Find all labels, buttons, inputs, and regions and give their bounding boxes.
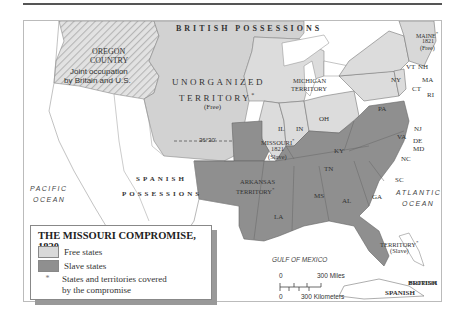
state-label-ma: MA xyxy=(422,77,433,84)
missouri-status: (Slave) xyxy=(268,154,287,161)
oregon-note-1: Joint occupation xyxy=(70,68,128,76)
state-label-ms: MS xyxy=(314,193,324,200)
state-label-ri: RI xyxy=(427,92,434,99)
state-label-va: VA xyxy=(397,134,406,141)
michigan-label-2: TERRITORY xyxy=(291,86,327,93)
legend-item-compromise: * States and territories covered by the … xyxy=(38,274,167,296)
pacific-ocean-label-2: OCEAN xyxy=(33,196,65,203)
unorganized-status: (Free) xyxy=(204,104,221,111)
slave-swatch xyxy=(38,260,59,272)
spanish-label-2: POSSESSIONS xyxy=(122,191,202,198)
oregon-note-2: by Britain and U.S. xyxy=(64,77,131,85)
arkansas-label-1: ARKANSAS xyxy=(240,179,275,186)
spanish-label-1: SPANISH xyxy=(136,176,187,183)
map-legend: THE MISSOURI COMPROMISE, 1820 Free state… xyxy=(30,225,212,300)
state-label-la: LA xyxy=(274,214,283,221)
legend-item-slave: Slave states xyxy=(38,260,106,272)
state-label-de: DE xyxy=(413,138,422,145)
latitude-label: 36°30' xyxy=(199,137,216,143)
british-islands-label: BRITISH xyxy=(408,280,437,287)
atlantic-ocean-label-1: ATLANTIC xyxy=(396,189,441,196)
top-rule xyxy=(23,3,442,5)
missouri-year: 1821 xyxy=(271,146,284,153)
arkansas-label-2: TERRITORY* xyxy=(236,187,275,196)
unorganized-label-1: UNORGANIZED xyxy=(172,78,265,87)
state-label-pa: PA xyxy=(378,106,386,113)
state-label-tn: TN xyxy=(324,166,333,173)
state-label-sc: SC xyxy=(395,177,404,184)
pacific-ocean-label-1: PACIFIC xyxy=(30,185,68,192)
british-possessions-label: BRITISH POSSESSIONS xyxy=(176,25,322,33)
state-label-nc: NC xyxy=(401,156,411,163)
state-label-ct: CT xyxy=(412,86,421,93)
state-label-nj: NJ xyxy=(414,126,422,133)
state-label-al: AL xyxy=(342,198,351,205)
state-label-oh: OH xyxy=(319,116,329,123)
oregon-name-2: COUNTRY xyxy=(90,57,128,65)
free-swatch xyxy=(38,246,59,258)
spanish-cuba-label: SPANISH xyxy=(385,290,415,297)
gulf-of-mexico-label: GULF OF MEXICO xyxy=(272,257,327,264)
state-label-md: MD xyxy=(413,146,424,153)
michigan-label-1: MICHIGAN xyxy=(293,78,326,85)
state-label-ny: NY xyxy=(391,77,401,84)
state-label-vt: VT xyxy=(406,64,415,71)
state-label-in: IN xyxy=(296,126,303,133)
legend-item-free: Free states xyxy=(38,246,102,258)
maine-year: 1821 xyxy=(422,38,434,44)
state-label-il: IL xyxy=(278,126,285,133)
state-label-ky: KY xyxy=(334,148,344,155)
maine-status: (Free) xyxy=(420,45,435,51)
state-label-nh: NH xyxy=(418,64,428,71)
state-label-ga: GA xyxy=(372,194,382,201)
atlantic-ocean-label-2: OCEAN xyxy=(402,200,434,207)
florida-status: (Slave) xyxy=(390,248,409,255)
asterisk-icon: * xyxy=(38,274,57,283)
oregon-name-1: OREGON xyxy=(92,48,125,56)
state-ny xyxy=(339,31,409,76)
unorganized-label-2: TERRITORY* xyxy=(179,92,257,103)
